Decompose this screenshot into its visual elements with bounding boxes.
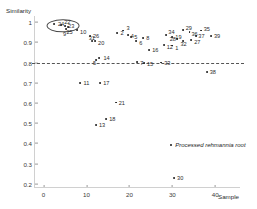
y-tick-label: 0.2 bbox=[23, 180, 32, 187]
data-point-label: 32 bbox=[180, 41, 186, 47]
annotation-label: Processed rehmannia root bbox=[175, 142, 245, 148]
x-tick-label: 0 bbox=[42, 191, 45, 198]
data-point bbox=[80, 82, 82, 84]
x-tick-mark bbox=[129, 185, 130, 188]
data-point-label: 35 bbox=[204, 26, 210, 32]
x-tick-label: 20 bbox=[126, 191, 133, 198]
data-point bbox=[176, 38, 178, 40]
data-point bbox=[116, 32, 118, 34]
x-tick-label: 40 bbox=[212, 191, 219, 198]
plot-area: 0.20.30.40.50.60.70.80.91 010203040 2422… bbox=[34, 16, 240, 188]
data-point bbox=[182, 29, 184, 31]
y-axis-title: Similarity bbox=[6, 7, 31, 14]
data-point bbox=[189, 31, 191, 33]
data-point bbox=[60, 24, 62, 26]
x-tick-mark bbox=[215, 185, 216, 188]
y-tick-label: 0.3 bbox=[23, 160, 32, 167]
x-tick-label: 30 bbox=[169, 191, 176, 198]
data-point bbox=[115, 102, 117, 104]
data-point bbox=[105, 118, 107, 120]
data-point-label: 33 bbox=[164, 60, 170, 66]
data-point bbox=[76, 29, 78, 31]
data-point bbox=[165, 34, 167, 36]
data-point-label: 34 bbox=[168, 29, 174, 35]
data-point bbox=[99, 82, 101, 84]
data-point bbox=[64, 25, 66, 27]
data-point-label: 30 bbox=[177, 175, 183, 181]
data-point bbox=[173, 177, 175, 179]
data-point-label: 31 bbox=[89, 35, 95, 41]
y-tick-label: 0.4 bbox=[23, 140, 32, 147]
x-tick-label: 10 bbox=[83, 191, 90, 198]
y-tick-mark bbox=[35, 143, 38, 144]
x-tick-mark bbox=[172, 185, 173, 188]
data-point-label: 20 bbox=[98, 40, 104, 46]
data-point-label: 5 bbox=[93, 60, 96, 66]
data-point bbox=[148, 49, 150, 51]
data-point bbox=[65, 28, 67, 30]
data-point-label: 9 bbox=[63, 31, 66, 37]
data-point-label: 3 bbox=[126, 25, 129, 31]
data-point bbox=[127, 34, 129, 36]
data-point-label: 39 bbox=[214, 33, 220, 39]
annotation-marker-icon bbox=[170, 144, 172, 146]
data-point bbox=[200, 30, 202, 32]
data-point-label: 10 bbox=[80, 29, 86, 35]
data-point-label: 8 bbox=[146, 35, 149, 41]
y-tick-label: 0.9 bbox=[23, 39, 32, 46]
data-point-label: 27 bbox=[194, 39, 200, 45]
data-point bbox=[142, 37, 144, 39]
y-tick-mark bbox=[35, 123, 38, 124]
y-tick-label: 0.8 bbox=[23, 59, 32, 66]
y-tick-mark bbox=[35, 82, 38, 83]
data-point-label: 28 bbox=[170, 36, 176, 42]
y-tick-mark bbox=[35, 22, 38, 23]
data-point-label: 13 bbox=[99, 122, 105, 128]
data-point-label: 21 bbox=[119, 100, 125, 106]
y-tick-label: 0.6 bbox=[23, 100, 32, 107]
x-tick-mark bbox=[86, 185, 87, 188]
data-point-label: 18 bbox=[109, 116, 115, 122]
y-tick-mark bbox=[35, 163, 38, 164]
data-point bbox=[122, 30, 124, 32]
y-tick-label: 0.5 bbox=[23, 120, 32, 127]
data-point bbox=[68, 26, 70, 28]
x-tick-mark bbox=[43, 185, 44, 188]
annotation-processed-rehmannia-root: Processed rehmannia root bbox=[170, 142, 245, 148]
y-tick-label: 0.7 bbox=[23, 79, 32, 86]
data-point bbox=[171, 45, 173, 47]
data-point bbox=[136, 61, 138, 63]
data-point bbox=[95, 124, 97, 126]
data-point bbox=[160, 62, 162, 64]
y-tick-label: 1 bbox=[29, 19, 32, 26]
data-point-label: 25 bbox=[66, 29, 72, 35]
y-tick-mark bbox=[35, 103, 38, 104]
data-point-label: 14 bbox=[103, 55, 109, 61]
data-point-label: 1 bbox=[175, 45, 178, 51]
y-tick-mark bbox=[35, 184, 38, 185]
data-point bbox=[210, 35, 212, 37]
scatter-chart: Similarity Sample 0.20.30.40.50.60.70.80… bbox=[0, 0, 257, 209]
data-point bbox=[130, 36, 132, 38]
data-point-label: 16 bbox=[152, 47, 158, 53]
data-point bbox=[206, 71, 208, 73]
data-point bbox=[53, 24, 55, 26]
x-axis-title: Sample bbox=[218, 193, 239, 200]
data-point-label: 15 bbox=[147, 61, 153, 67]
data-point-label: 5 bbox=[134, 34, 137, 40]
data-point-label: 6 bbox=[139, 40, 142, 46]
data-point bbox=[98, 57, 100, 59]
data-point-label: 17 bbox=[103, 80, 109, 86]
y-tick-mark bbox=[35, 42, 38, 43]
data-point-label: 38 bbox=[210, 69, 216, 75]
data-point bbox=[195, 35, 197, 37]
data-point bbox=[143, 62, 145, 64]
data-point-label: 11 bbox=[83, 80, 89, 86]
data-point bbox=[163, 44, 165, 46]
data-point bbox=[190, 39, 192, 41]
data-point bbox=[135, 40, 137, 42]
